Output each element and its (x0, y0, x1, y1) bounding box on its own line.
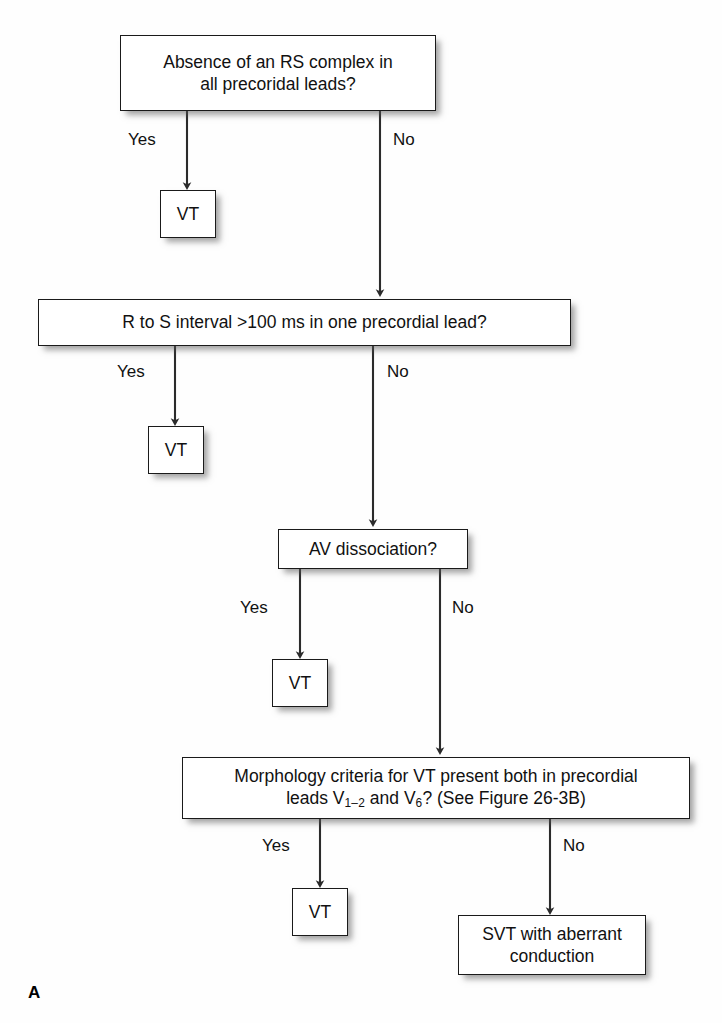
terminal-node-vt-4-label: VT (303, 901, 337, 923)
figure-panel-a: Absence of an RS complex in all precorid… (0, 0, 722, 1023)
edge-label-no-2: No (387, 362, 409, 382)
edge-label-no-3: No (452, 598, 474, 618)
caption-clipped (0, 1011, 722, 1023)
subscript-v1-2: 1–2 (345, 796, 365, 810)
terminal-node-vt-1[interactable]: VT (160, 190, 216, 238)
decision-node-av-dissociation[interactable]: AV dissociation? (278, 529, 468, 569)
decision-node-rs-complex-label: Absence of an RS complex in all precorid… (157, 51, 399, 96)
terminal-node-svt-aberrant-label: SVT with aberrant conduction (476, 923, 628, 968)
terminal-node-vt-4[interactable]: VT (292, 888, 348, 936)
decision-node-av-dissociation-label: AV dissociation? (303, 538, 443, 560)
decision-node-morphology-criteria[interactable]: Morphology criteria for VT present both … (182, 757, 690, 819)
panel-letter-a: A (28, 983, 41, 1003)
terminal-node-svt-aberrant[interactable]: SVT with aberrant conduction (458, 915, 646, 975)
decision-node-rs-interval[interactable]: R to S interval >100 ms in one precordia… (38, 299, 571, 346)
decision-node-rs-interval-label: R to S interval >100 ms in one precordia… (116, 311, 492, 333)
terminal-node-vt-1-label: VT (171, 203, 205, 225)
terminal-node-vt-3[interactable]: VT (272, 659, 328, 707)
terminal-node-vt-3-label: VT (283, 672, 317, 694)
edge-label-no-4: No (563, 836, 585, 856)
edge-label-no-1: No (393, 130, 415, 150)
flowchart-connectors (0, 0, 722, 1023)
edge-label-yes-2: Yes (117, 362, 145, 382)
edge-label-yes-3: Yes (240, 598, 268, 618)
decision-node-rs-complex[interactable]: Absence of an RS complex in all precorid… (120, 35, 436, 111)
terminal-node-vt-2-label: VT (159, 439, 193, 461)
terminal-node-vt-2[interactable]: VT (148, 426, 204, 474)
edge-label-yes-4: Yes (262, 836, 290, 856)
decision-node-morphology-criteria-label: Morphology criteria for VT present both … (228, 765, 643, 812)
edge-label-yes-1: Yes (128, 130, 156, 150)
